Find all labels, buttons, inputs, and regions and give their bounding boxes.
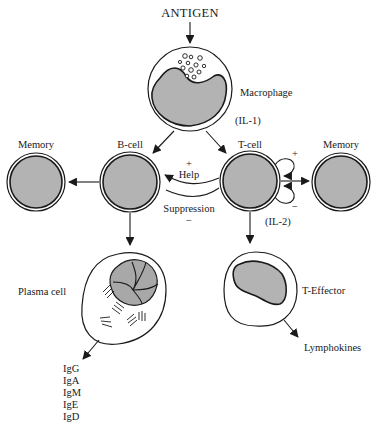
ig-item: IgE: [63, 399, 78, 410]
immunoglobulin-list: IgG IgA IgM IgE IgD: [63, 363, 82, 422]
plasma-to-ig-arrow: [83, 340, 99, 359]
memory-left-label: Memory: [18, 139, 55, 150]
antigen-label: ANTIGEN: [161, 6, 219, 20]
suppression-arc: [166, 188, 219, 197]
ig-item: IgG: [63, 363, 80, 374]
memory-left-cell: [7, 153, 65, 211]
tcell-feedback-plus: +: [292, 148, 298, 159]
plasma-cell: [82, 253, 166, 345]
memory-right-cell: [312, 153, 370, 211]
lymphokines-label: Lymphokines: [304, 342, 361, 353]
tcell-feedback-minus: −: [292, 201, 298, 212]
plasma-cell-label: Plasma cell: [18, 286, 66, 297]
bcell-label: B-cell: [117, 139, 143, 150]
bcell-cell: [100, 152, 160, 212]
tcell-label: T-cell: [238, 139, 262, 150]
tcell-cell: [220, 151, 280, 211]
macrophage-to-tcell-arrow: [206, 131, 226, 153]
il1-label: (IL-1): [235, 115, 261, 127]
ig-item: IgA: [63, 375, 80, 386]
immune-response-diagram: ANTIGEN Macrophage (IL-1) Memory B-cell: [0, 0, 379, 425]
memory-right-label: Memory: [323, 139, 360, 150]
ig-item: IgD: [63, 411, 80, 422]
ig-item: IgM: [63, 387, 82, 398]
suppression-sign: −: [186, 215, 192, 226]
help-label: Help: [179, 169, 199, 180]
il2-label: (IL-2): [265, 216, 291, 228]
t-effector-cell: [224, 252, 297, 326]
macrophage-cell: [148, 47, 232, 131]
effector-to-lymphokines-arrow: [284, 320, 298, 337]
t-effector-label: T-Effector: [302, 285, 346, 296]
suppression-label: Suppression: [163, 203, 215, 214]
macrophage-to-bcell-arrow: [153, 131, 174, 153]
help-sign: +: [186, 158, 192, 169]
macrophage-label: Macrophage: [240, 87, 293, 98]
